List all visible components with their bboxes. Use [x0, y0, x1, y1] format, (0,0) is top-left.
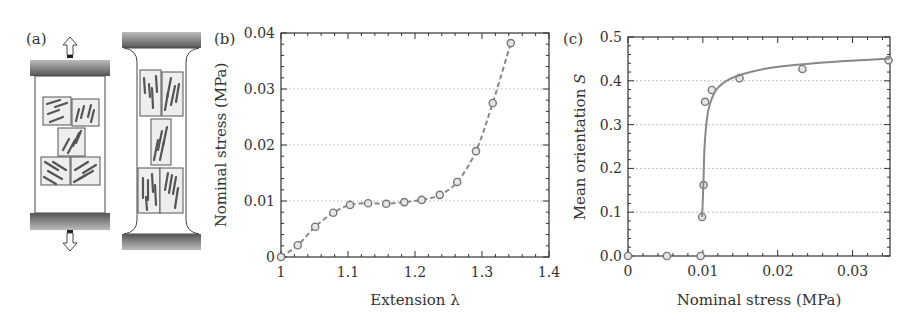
domain	[151, 119, 171, 165]
tick-labels: 11.11.21.31.400.010.020.030.04	[244, 25, 560, 280]
figure: (a)	[0, 0, 922, 327]
data-point	[697, 252, 704, 259]
y-tick-label: 0.1	[600, 204, 622, 220]
panel-c-chart: (c) 00.010.020.030.00.10.20.30.40.5 Nomi…	[563, 29, 892, 309]
x-tick-label: 0.01	[687, 263, 718, 279]
x-tick-label: 1.4	[538, 264, 560, 280]
data-series	[277, 39, 514, 260]
y-tick-label: 0.03	[244, 81, 275, 97]
y-axis-symbol: S	[571, 74, 589, 84]
y-tick-label: 0.02	[244, 137, 275, 153]
bottom-clamp	[30, 213, 110, 230]
unstretched-specimen	[30, 37, 110, 251]
domain	[58, 128, 85, 156]
data-point	[454, 178, 461, 185]
y-tick-label: 0.5	[600, 29, 622, 45]
x-tick-label: 1.3	[471, 264, 493, 280]
y-tick-label: 0.3	[600, 117, 622, 133]
gridlines	[628, 81, 890, 212]
panel-a: (a)	[26, 30, 201, 251]
data-point	[330, 209, 337, 216]
panel-a-label: (a)	[26, 30, 47, 48]
x-tick-label: 1	[277, 264, 286, 280]
x-tick-label: 1.2	[404, 264, 426, 280]
panel-c-label: (c)	[563, 30, 583, 48]
data-point	[346, 201, 353, 208]
domain	[160, 168, 183, 213]
data-point	[799, 65, 806, 72]
domain	[162, 72, 183, 116]
y-tick-label: 0.2	[600, 160, 622, 176]
domain	[72, 99, 99, 126]
y-tick-label: 0	[266, 249, 275, 265]
x-tick-label: 1.1	[337, 264, 359, 280]
domain	[43, 97, 71, 125]
top-clamp	[30, 60, 110, 76]
stretched-specimen	[122, 32, 201, 250]
gridlines	[281, 89, 549, 201]
x-tick-label: 0	[624, 263, 633, 279]
panel-b-chart: (b) 11.11.21.31.400.010.020.030.04 Exten…	[212, 25, 560, 309]
data-point	[489, 99, 496, 106]
data-point	[277, 253, 284, 260]
data-point	[365, 200, 372, 207]
bottom-clamp	[122, 234, 201, 250]
data-point	[507, 39, 514, 46]
series-line	[702, 58, 890, 217]
data-point	[418, 196, 425, 203]
y-tick-label: 0.4	[600, 73, 622, 89]
top-clamp	[122, 32, 201, 48]
data-point	[401, 199, 408, 206]
data-point	[472, 148, 479, 155]
arrow-up-icon	[63, 37, 77, 58]
domain	[140, 70, 161, 116]
x-tick-label: 0.02	[762, 263, 793, 279]
data-point	[294, 242, 301, 249]
y-axis-title: Nominal stress (MPa)	[212, 63, 230, 228]
data-point	[663, 252, 670, 259]
y-axis-title: Mean orientation S	[571, 74, 589, 221]
y-axis-title-text: Mean orientation	[571, 84, 589, 220]
arrow-down-icon	[63, 230, 77, 251]
domain	[71, 157, 100, 185]
x-axis-title: Extension λ	[370, 291, 460, 309]
panel-b-label: (b)	[214, 30, 235, 48]
data-point	[312, 223, 319, 230]
data-point	[383, 200, 390, 207]
y-tick-label: 0.01	[244, 193, 275, 209]
x-axis-title: Nominal stress (MPa)	[677, 291, 842, 309]
data-point	[624, 252, 631, 259]
y-tick-label: 0.0	[600, 248, 622, 264]
data-series	[624, 57, 892, 260]
data-point	[436, 191, 443, 198]
domain	[138, 168, 160, 213]
tick-labels: 00.010.020.030.00.10.20.30.40.5	[600, 29, 868, 279]
data-point	[702, 98, 709, 105]
y-tick-label: 0.04	[244, 25, 275, 41]
domain	[41, 157, 70, 185]
x-tick-label: 0.03	[837, 263, 868, 279]
